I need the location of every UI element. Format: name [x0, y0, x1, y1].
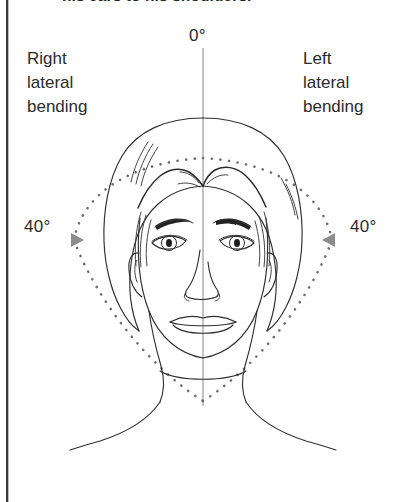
hair-outline-left — [104, 118, 203, 331]
head-and-neck-line-drawing — [0, 0, 396, 502]
hairline-edge-right — [203, 186, 276, 331]
shoulder-right — [246, 402, 336, 450]
cervical-rom-figure: his ears to his shoulders. 0° Right late… — [0, 0, 396, 502]
face-contour-right — [203, 218, 268, 358]
nose-wing-right — [208, 262, 218, 298]
fringe-strand-c — [207, 175, 228, 184]
shoulder-left — [70, 402, 160, 450]
triangle-left-icon — [322, 233, 335, 247]
eyebrow-right-inner-dark — [216, 220, 237, 226]
ear-left-inner — [135, 260, 137, 282]
crown-strand-2 — [136, 144, 153, 184]
nose-bridge-left — [186, 250, 200, 298]
crown-strand-4 — [281, 178, 295, 215]
fringe-sweep-left — [138, 169, 203, 208]
triangle-right-icon — [71, 233, 84, 247]
sideburn-left-3 — [146, 220, 151, 266]
sideburn-right-3 — [255, 221, 260, 266]
hairline-edge-left — [130, 186, 203, 331]
nose-base — [190, 298, 213, 300]
face-contour-left — [138, 218, 203, 358]
crown-strand-1 — [131, 142, 148, 182]
eye-right-pupil — [234, 239, 240, 247]
eye-left-pupil — [166, 239, 172, 247]
